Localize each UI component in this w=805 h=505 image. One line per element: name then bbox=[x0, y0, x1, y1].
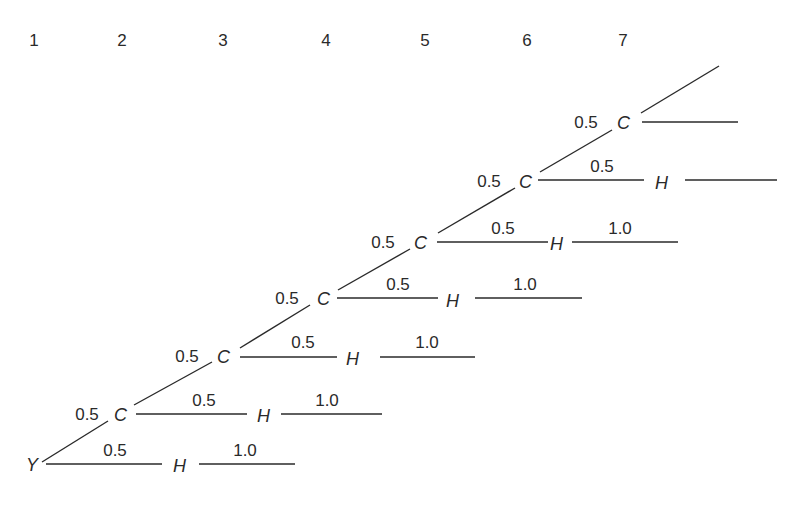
column-label-1: 1 bbox=[29, 31, 38, 50]
h-node: H bbox=[346, 349, 360, 369]
in-weight: 0.5 bbox=[371, 233, 395, 252]
column-label-7: 7 bbox=[618, 31, 627, 50]
backbone-edge-1 bbox=[42, 421, 108, 462]
row-3: 0.5 C 0.5 H 1.0 bbox=[175, 333, 475, 369]
side-weight: 0.5 bbox=[291, 333, 315, 352]
side-weight: 0.5 bbox=[103, 441, 127, 460]
side-weight: 0.5 bbox=[386, 275, 410, 294]
column-label-6: 6 bbox=[522, 31, 531, 50]
column-headers: 1 2 3 4 5 6 7 bbox=[29, 31, 627, 50]
in-weight: 0.5 bbox=[477, 172, 501, 191]
c-node: C bbox=[617, 113, 631, 133]
c-node: C bbox=[519, 172, 533, 192]
h-node: H bbox=[655, 173, 669, 193]
tail-weight: 1.0 bbox=[608, 219, 632, 238]
row-4: 0.5 C 0.5 H 1.0 bbox=[275, 275, 582, 311]
in-weight: 0.5 bbox=[175, 347, 199, 366]
h-node: H bbox=[446, 291, 460, 311]
row-7: 0.5 C bbox=[574, 113, 738, 133]
branching-chain-diagram: 1 2 3 4 5 6 7 Y 0.5 H 1.0 0.5 C 0.5 H 1.… bbox=[0, 0, 805, 505]
h-node: H bbox=[550, 234, 564, 254]
column-label-2: 2 bbox=[117, 31, 126, 50]
row-5: 0.5 C 0.5 H 1.0 bbox=[371, 219, 678, 254]
tail-weight: 1.0 bbox=[513, 275, 537, 294]
in-weight: 0.5 bbox=[574, 113, 598, 132]
side-weight: 0.5 bbox=[192, 391, 216, 410]
column-label-5: 5 bbox=[420, 31, 429, 50]
h-node: H bbox=[257, 406, 271, 426]
tail-weight: 1.0 bbox=[415, 333, 439, 352]
column-label-3: 3 bbox=[218, 31, 227, 50]
c-node: C bbox=[114, 405, 128, 425]
tail-weight: 1.0 bbox=[233, 441, 257, 460]
c-node: C bbox=[217, 347, 231, 367]
c-node: C bbox=[317, 289, 331, 309]
tail-weight: 1.0 bbox=[315, 391, 339, 410]
h-node: H bbox=[173, 456, 187, 476]
side-weight: 0.5 bbox=[491, 219, 515, 238]
c-node: C bbox=[414, 233, 428, 253]
row-2: 0.5 C 0.5 H 1.0 bbox=[75, 391, 382, 426]
column-label-4: 4 bbox=[321, 31, 330, 50]
row-6: 0.5 C 0.5 H bbox=[477, 157, 777, 193]
side-weight: 0.5 bbox=[590, 157, 614, 176]
root-node: Y bbox=[26, 455, 40, 475]
backbone-edge-7 bbox=[641, 66, 719, 113]
in-weight: 0.5 bbox=[75, 405, 99, 424]
in-weight: 0.5 bbox=[275, 289, 299, 308]
